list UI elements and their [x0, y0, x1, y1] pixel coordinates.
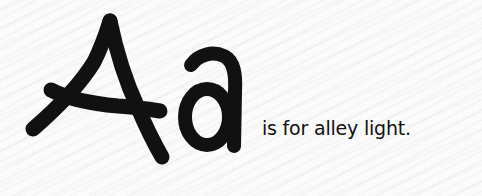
lowercase-letter-a: a [185, 54, 235, 146]
alphabet-flashcard: A a is for alley light. [0, 0, 482, 196]
caption-text: is for alley light. [262, 117, 411, 139]
uppercase-letter-A: A [33, 21, 162, 157]
letter-glyphs: A a [0, 0, 482, 196]
